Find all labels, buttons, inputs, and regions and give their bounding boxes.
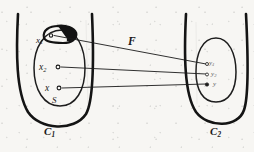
point-marker-x2 [56, 65, 60, 69]
point-marker-y [205, 83, 208, 86]
label-x: x [45, 84, 49, 94]
label-map-f: F [128, 36, 136, 48]
point-marker-x1 [49, 34, 52, 37]
label-y2: y2 [211, 71, 217, 79]
label-c2: C2 [210, 126, 221, 139]
outer-curve-c2 [185, 14, 248, 124]
point-marker-x [57, 86, 61, 90]
label-subset-s: S [52, 96, 57, 105]
mapping-diagram: x1 x2 x S C1 F y1 y2 y C2 [0, 0, 254, 152]
label-x1: x1 [36, 36, 43, 46]
inner-oval-c2 [196, 38, 236, 102]
label-c1: C1 [44, 126, 55, 139]
label-y1: y1 [209, 60, 215, 68]
label-y: y [213, 81, 216, 88]
scan-artifacts [86, 20, 197, 108]
label-x2: x2 [39, 63, 46, 73]
point-marker-y2 [206, 73, 209, 76]
